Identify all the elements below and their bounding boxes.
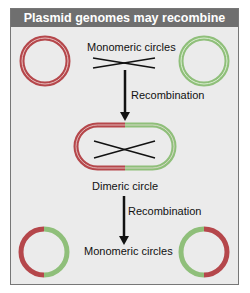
label-dimeric-circle: Dimeric circle [92,180,158,192]
arrow-down-icon [119,196,129,245]
plasmid-circle-bottom-right [181,229,227,275]
label-recombination-1: Recombination [131,89,204,101]
crossover-lines-top [93,58,155,68]
plasmid-dimer [76,125,174,168]
label-monomeric-circles-top: Monomeric circles [87,41,176,53]
label-recombination-2: Recombination [128,205,201,217]
crossover-lines-middle [94,141,155,158]
plasmid-circle-top-left [22,38,68,84]
plasmid-circle-top-right [181,38,227,84]
arrow-down-icon [120,70,130,121]
plasmid-circle-bottom-left [21,229,67,275]
label-monomeric-circles-bottom: Monomeric circles [84,245,173,257]
